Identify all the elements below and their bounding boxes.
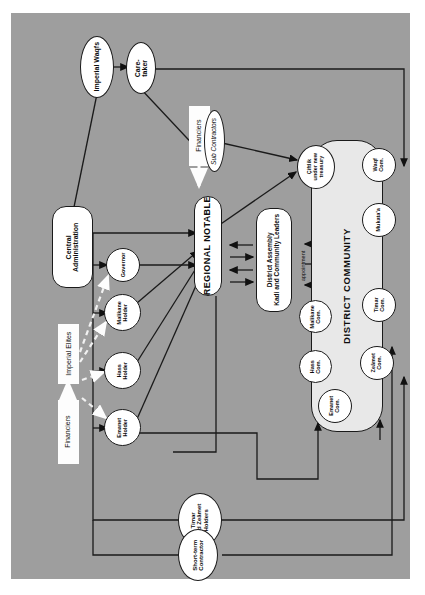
node-malikane-holder-label: Malikane Holder: [117, 301, 129, 324]
node-governor[interactable]: Governor: [106, 248, 140, 282]
node-hass-holder-label: Hass Holder: [117, 362, 129, 379]
node-regional-notable-label: REGIONAL NOTABLE: [203, 196, 212, 295]
node-ciftlik-new-treasury[interactable]: Çiftlik under new treasury: [297, 145, 335, 189]
node-malikane-com[interactable]: Malikane Com.: [299, 300, 332, 333]
node-mukataa[interactable]: Mukata'a: [362, 203, 396, 237]
node-emanet-com-label: Emanet Com.: [329, 396, 341, 416]
node-district-assembly[interactable]: District Assembly Kadi and Community Lea…: [256, 208, 292, 312]
district-community-label: DISTRICT COMMUNITY: [342, 228, 352, 344]
node-financiers-top-label: Financiers: [196, 120, 203, 152]
node-zeamet-com[interactable]: Zeâmet Com.: [360, 346, 394, 380]
node-financiers-bottom-label: Financiers: [65, 416, 72, 448]
node-waqf-com[interactable]: Waqf Com.: [362, 148, 396, 182]
appointment-label: appointment: [301, 251, 307, 281]
node-central-administration[interactable]: Central Administration: [52, 206, 93, 288]
node-emanet-com[interactable]: Emanet Com.: [318, 389, 352, 423]
node-central-administration-label: Central Administration: [65, 222, 80, 271]
node-district-assembly-label: District Assembly Kadi and Community Lea…: [267, 214, 281, 306]
node-regional-notable[interactable]: REGIONAL NOTABLE: [194, 196, 222, 296]
node-hass-holder[interactable]: Hass Holder: [104, 352, 141, 389]
node-emanet-holder[interactable]: Emanet Holder: [104, 409, 141, 446]
node-emanet-holder-label: Emanet Holder: [117, 418, 129, 438]
node-imperial-waqfs-label: Imperial Waqfs: [93, 42, 100, 92]
node-hass-com-label: Hass Com.: [310, 360, 322, 374]
node-zeamet-com-label: Zeâmet Com.: [371, 353, 383, 372]
node-caretaker[interactable]: Care- taker: [126, 42, 156, 94]
node-mukataa-label: Mukata'a: [376, 208, 382, 231]
node-caretaker-label: Care- taker: [134, 59, 149, 77]
node-malikane-com-label: Malikane Com.: [310, 305, 322, 328]
node-sub-contractors[interactable]: Sub Contractors: [204, 110, 225, 172]
edge-label-appointment: appointment: [296, 236, 312, 296]
node-sub-contractors-label: Sub Contractors: [211, 118, 218, 165]
node-imperial-elites-label: Imperial Elites: [65, 332, 72, 376]
node-financiers-bottom[interactable]: Financiers: [58, 400, 79, 464]
node-ciftlik-new-treasury-label: Çiftlik under new treasury: [307, 153, 324, 181]
node-short-term-contractor[interactable]: Short-term Contractor: [178, 529, 218, 581]
node-short-term-contractor-label: Short-term Contractor: [192, 540, 205, 571]
node-hass-com[interactable]: Hass Com.: [299, 350, 332, 383]
node-imperial-elites[interactable]: Imperial Elites: [58, 324, 79, 384]
node-malikane-holder[interactable]: Malikane Holder: [104, 294, 141, 331]
node-waqf-com-label: Waqf Com.: [373, 158, 385, 172]
node-governor-label: Governor: [120, 253, 126, 278]
node-imperial-waqfs[interactable]: Imperial Waqfs: [80, 36, 114, 98]
node-timar-com[interactable]: Timar Com.: [362, 288, 396, 322]
node-timar-com-label: Timar Com.: [373, 298, 385, 313]
diagram-canvas: DISTRICT COMMUNITY Imperial Waqfs Care- …: [0, 0, 425, 595]
